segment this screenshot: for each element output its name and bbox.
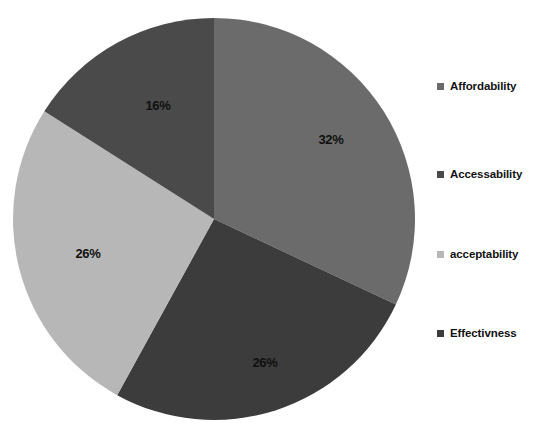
legend-swatch-effectivness — [437, 330, 444, 337]
legend-item-affordability[interactable]: Affordability — [437, 80, 516, 92]
legend-label-acceptability: acceptability — [450, 248, 518, 260]
pie-chart-svg: 32% 26% 26% 16% — [0, 0, 430, 439]
legend-item-effectivness[interactable]: Effectivness — [437, 327, 517, 339]
pie-label-affordability: 32% — [318, 132, 344, 147]
legend-item-acceptability[interactable]: acceptability — [437, 248, 518, 260]
legend-swatch-affordability — [437, 83, 444, 90]
pie-label-accessability: 16% — [145, 98, 171, 113]
legend-swatch-accessability — [437, 171, 444, 178]
legend-label-effectivness: Effectivness — [450, 327, 517, 339]
pie-slices — [13, 18, 415, 420]
legend-swatch-acceptability — [437, 251, 444, 258]
legend-item-accessability[interactable]: Accessability — [437, 168, 522, 180]
pie-chart-screenshot: 32% 26% 26% 16% Affordability Accessabil… — [0, 0, 560, 439]
pie-chart-plot-area: 32% 26% 26% 16% — [0, 0, 430, 439]
legend-label-affordability: Affordability — [450, 80, 516, 92]
legend-label-accessability: Accessability — [450, 168, 522, 180]
chart-legend: Affordability Accessability acceptabilit… — [437, 0, 560, 439]
pie-label-effectivness: 26% — [252, 355, 278, 370]
pie-label-acceptability: 26% — [75, 246, 101, 261]
